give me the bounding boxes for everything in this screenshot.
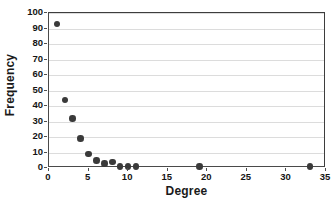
x-axis-tick-labels: 05101520253035 xyxy=(48,168,325,184)
y-tick-mark xyxy=(44,12,47,13)
y-tick-label: 20 xyxy=(32,131,43,141)
y-tick-label: 80 xyxy=(32,38,43,48)
x-tick-mark xyxy=(48,168,49,171)
y-tick-mark xyxy=(44,152,47,153)
data-point xyxy=(54,21,61,28)
x-tick-label: 5 xyxy=(85,172,90,182)
y-tick-label: 0 xyxy=(38,162,43,172)
data-point xyxy=(109,159,116,166)
y-tick-mark xyxy=(44,28,47,29)
data-point xyxy=(101,160,108,167)
x-axis-title: Degree xyxy=(48,184,325,198)
data-point xyxy=(69,115,76,122)
x-tick-label: 0 xyxy=(45,172,50,182)
y-tick-label: 70 xyxy=(32,54,43,64)
x-tick-label: 25 xyxy=(241,172,252,182)
data-point xyxy=(93,157,100,164)
x-tick-mark xyxy=(167,168,168,171)
y-tick-label: 40 xyxy=(32,100,43,110)
y-axis-title: Frequency xyxy=(0,0,20,170)
y-tick-mark xyxy=(44,121,47,122)
data-point-series xyxy=(49,13,324,166)
data-point xyxy=(77,135,84,142)
scatter-chart-figure: Frequency 0102030405060708090100 0510152… xyxy=(0,0,335,208)
data-point xyxy=(85,151,92,158)
plot-area xyxy=(48,12,325,167)
y-tick-mark xyxy=(44,74,47,75)
y-tick-label: 100 xyxy=(27,7,43,17)
y-tick-label: 30 xyxy=(32,116,43,126)
y-tick-label: 60 xyxy=(32,69,43,79)
y-tick-mark xyxy=(44,167,47,168)
x-tick-label: 35 xyxy=(320,172,331,182)
x-tick-mark xyxy=(127,168,128,171)
y-tick-label: 50 xyxy=(32,85,43,95)
data-point xyxy=(62,97,69,104)
x-tick-mark xyxy=(246,168,247,171)
y-tick-mark xyxy=(44,59,47,60)
y-tick-label: 10 xyxy=(32,147,43,157)
x-tick-label: 15 xyxy=(161,172,172,182)
x-tick-label: 20 xyxy=(201,172,212,182)
x-tick-mark xyxy=(285,168,286,171)
y-axis-title-label: Frequency xyxy=(3,54,17,117)
y-tick-mark xyxy=(44,90,47,91)
y-tick-mark xyxy=(44,136,47,137)
y-axis-tick-labels: 0102030405060708090100 xyxy=(18,12,47,167)
y-tick-mark xyxy=(44,43,47,44)
x-tick-mark xyxy=(88,168,89,171)
y-tick-label: 90 xyxy=(32,23,43,33)
x-tick-label: 30 xyxy=(280,172,291,182)
x-tick-label: 10 xyxy=(122,172,133,182)
y-tick-mark xyxy=(44,105,47,106)
x-tick-mark xyxy=(206,168,207,171)
x-tick-mark xyxy=(325,168,326,171)
